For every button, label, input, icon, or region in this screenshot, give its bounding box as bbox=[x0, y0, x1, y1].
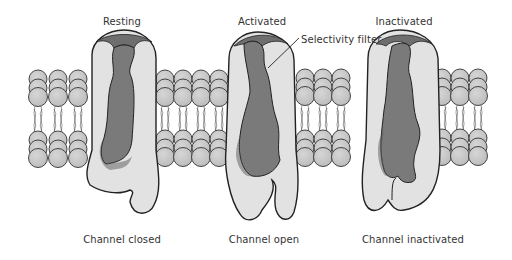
channel-resting bbox=[87, 30, 159, 213]
channel-activated bbox=[226, 32, 298, 220]
ion-channel-diagram: Resting Activated Inactivated Selectivit… bbox=[0, 0, 512, 260]
label-channel-closed: Channel closed bbox=[83, 234, 161, 245]
channel-inactivated bbox=[362, 30, 440, 211]
label-selectivity-filter: Selectivity filter bbox=[301, 34, 381, 45]
diagram-canvas bbox=[0, 0, 512, 260]
label-channel-open: Channel open bbox=[229, 234, 299, 245]
label-activated: Activated bbox=[238, 16, 286, 27]
label-inactivated: Inactivated bbox=[375, 16, 432, 27]
label-channel-inactivated: Channel inactivated bbox=[362, 234, 464, 245]
label-resting: Resting bbox=[103, 16, 141, 27]
